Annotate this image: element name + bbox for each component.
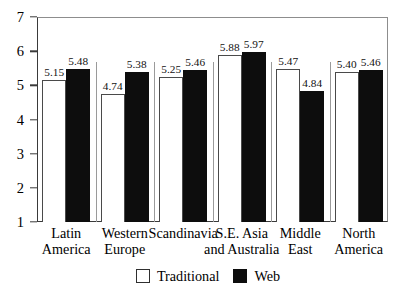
bar-value-label: 5.38 xyxy=(118,59,156,70)
category-label: NorthAmerica xyxy=(318,226,401,257)
bar-web xyxy=(183,70,207,222)
bar-traditional xyxy=(42,80,66,222)
y-axis: 1234567 xyxy=(0,10,37,229)
bar-value-label: 5.47 xyxy=(269,56,307,67)
y-tick-mark xyxy=(30,187,37,188)
y-tick-mark xyxy=(30,16,37,17)
category-axis-labels: LatinAmericaWesternEuropeScandinaviaS.E.… xyxy=(37,226,388,264)
category-separator xyxy=(213,62,214,222)
category-separator xyxy=(271,62,272,222)
y-tick-label: 6 xyxy=(17,44,24,58)
y-tick-label: 2 xyxy=(17,181,24,195)
category-label-line: North xyxy=(318,226,401,242)
bar-traditional xyxy=(276,69,300,222)
grouped-bar-chart: 1234567 5.155.484.745.385.255.465.885.97… xyxy=(0,0,416,299)
bar-value-label: 5.46 xyxy=(352,57,390,68)
black-square-swatch xyxy=(233,269,247,283)
bar-traditional xyxy=(159,77,183,222)
category-label-line: Europe xyxy=(84,242,167,258)
chart-legend: Traditional Web xyxy=(0,264,416,288)
bar-web xyxy=(125,72,149,222)
bar-web xyxy=(66,69,90,222)
y-tick-mark xyxy=(30,153,37,154)
y-tick-mark xyxy=(30,85,37,86)
y-tick-mark xyxy=(30,119,37,120)
legend-item-web: Web xyxy=(233,269,280,284)
legend-item-traditional: Traditional xyxy=(136,269,220,284)
bar-value-label: 4.84 xyxy=(293,78,331,89)
plot-area: 5.155.484.745.385.255.465.885.975.474.84… xyxy=(37,17,388,222)
bar-value-label: 5.46 xyxy=(176,57,214,68)
bar-web xyxy=(242,52,266,222)
bar-traditional xyxy=(101,94,125,222)
y-tick-mark xyxy=(30,221,37,222)
legend-label-traditional: Traditional xyxy=(157,269,220,284)
category-separator xyxy=(330,62,331,222)
category-label-line: America xyxy=(318,242,401,258)
y-tick-label: 7 xyxy=(17,10,24,24)
white-square-swatch xyxy=(136,269,150,283)
y-tick-label: 5 xyxy=(17,78,24,92)
y-tick-mark xyxy=(30,50,37,51)
bar-value-label: 5.48 xyxy=(59,56,97,67)
bar-web xyxy=(300,91,324,222)
bar-web xyxy=(359,70,383,222)
bar-traditional xyxy=(218,55,242,222)
y-tick-label: 3 xyxy=(17,147,24,161)
bar-traditional xyxy=(335,72,359,222)
y-tick-label: 4 xyxy=(17,113,24,127)
category-separator xyxy=(154,62,155,222)
y-tick-label: 1 xyxy=(17,215,24,229)
bar-value-label: 5.97 xyxy=(235,39,273,50)
legend-label-web: Web xyxy=(254,269,280,284)
